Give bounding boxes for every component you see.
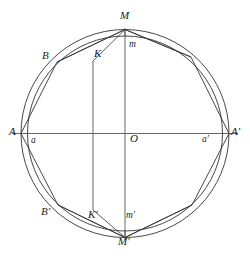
geometric-figure: M m B K A a O a' A' B' K' m' M'	[0, 0, 250, 258]
label-m-prime: m'	[126, 211, 135, 221]
label-O: O	[130, 133, 138, 144]
chord-M-to-B	[57, 30, 125, 63]
label-B-prime: B'	[41, 206, 50, 217]
label-K: K	[94, 48, 101, 59]
chord-Mp-to-right	[125, 205, 192, 238]
label-M-prime: M'	[118, 236, 130, 247]
figure-canvas	[0, 0, 250, 258]
label-K-prime: K'	[88, 209, 98, 220]
label-a-prime: a'	[202, 135, 209, 145]
label-m: m	[129, 40, 136, 50]
label-a: a	[31, 136, 36, 146]
label-M: M	[120, 10, 129, 21]
label-A: A	[9, 126, 16, 137]
label-B: B	[42, 50, 49, 61]
label-A-prime: A'	[231, 126, 240, 137]
